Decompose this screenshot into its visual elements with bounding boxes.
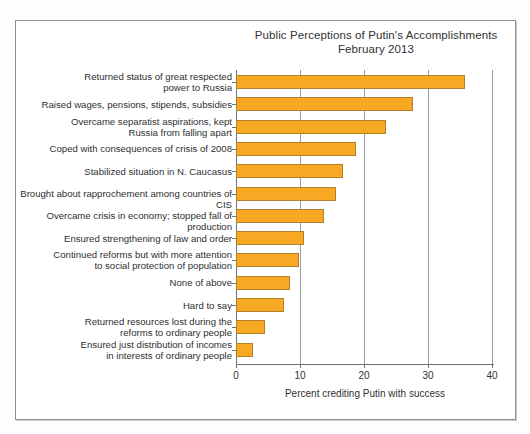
category-label-line: Continued reforms but with more attentio… xyxy=(17,249,232,260)
category-label: None of above xyxy=(17,277,232,288)
category-label: Ensured just distribution of incomesin i… xyxy=(17,339,232,361)
x-axis-title: Percent crediting Putin with success xyxy=(236,388,494,399)
x-tick-30 xyxy=(428,364,429,368)
category-label-line: Overcame separatist aspirations, kept xyxy=(17,116,232,127)
y-tick xyxy=(232,194,236,195)
x-tick-10 xyxy=(300,364,301,368)
category-label-line: Russia from falling apart xyxy=(17,127,232,138)
x-tick-40 xyxy=(492,364,493,368)
bar xyxy=(236,164,343,178)
category-label: Hard to say xyxy=(17,300,232,311)
gridline-30 xyxy=(428,70,429,364)
x-tick-0 xyxy=(236,364,237,368)
category-label-line: Hard to say xyxy=(17,300,232,311)
bar xyxy=(236,343,253,357)
bar xyxy=(236,253,299,267)
bar xyxy=(236,231,304,245)
category-label: Coped with consequences of crisis of 200… xyxy=(17,143,232,154)
bar xyxy=(236,142,356,156)
category-label: Brought about rapprochement among countr… xyxy=(17,188,232,210)
category-label: Returned status of great respectedpower … xyxy=(17,71,232,93)
bar xyxy=(236,209,324,223)
bar xyxy=(236,120,386,134)
plot-area xyxy=(236,70,492,364)
y-tick xyxy=(232,171,236,172)
bar xyxy=(236,276,290,290)
bar xyxy=(236,187,336,201)
category-label: Overcame crisis in economy; stopped fall… xyxy=(17,210,232,232)
x-axis-line xyxy=(236,364,494,365)
x-tick-label-40: 40 xyxy=(486,370,497,381)
category-label: Overcame separatist aspirations, keptRus… xyxy=(17,116,232,138)
category-label-line: Returned status of great respected xyxy=(17,71,232,82)
x-tick-20 xyxy=(364,364,365,368)
y-tick xyxy=(232,149,236,150)
category-label-line: Brought about rapprochement among countr… xyxy=(17,188,232,210)
category-label: Ensured strengthening of law and order xyxy=(17,233,232,244)
gridline-40 xyxy=(492,70,493,364)
category-label-line: power to Russia xyxy=(17,82,232,93)
y-tick xyxy=(232,216,236,217)
x-tick-label-10: 10 xyxy=(294,370,305,381)
y-tick xyxy=(232,82,236,83)
x-tick-label-0: 0 xyxy=(233,370,239,381)
category-label: Continued reforms but with more attentio… xyxy=(17,249,232,271)
category-label-line: Coped with consequences of crisis of 200… xyxy=(17,143,232,154)
y-tick xyxy=(232,350,236,351)
y-tick xyxy=(232,127,236,128)
category-label: Returned resources lost during thereform… xyxy=(17,316,232,338)
category-label-line: Returned resources lost during the xyxy=(17,316,232,327)
category-label: Raised wages, pensions, stipends, subsid… xyxy=(17,99,232,110)
category-label-line: Stabilized situation in N. Caucasus xyxy=(17,166,232,177)
category-label-line: Raised wages, pensions, stipends, subsid… xyxy=(17,99,232,110)
y-tick xyxy=(232,238,236,239)
bar xyxy=(236,97,413,111)
category-label-line: Ensured strengthening of law and order xyxy=(17,233,232,244)
category-label-line: None of above xyxy=(17,277,232,288)
x-tick-label-20: 20 xyxy=(358,370,369,381)
chart-title: Public Perceptions of Putin's Accomplish… xyxy=(236,28,516,56)
y-tick xyxy=(232,327,236,328)
gridline-20 xyxy=(364,70,365,364)
category-label-line: in interests of ordinary people xyxy=(17,350,232,361)
category-label-line: reforms to ordinary people xyxy=(17,327,232,338)
category-label-line: Overcame crisis in economy; stopped fall… xyxy=(17,210,232,232)
y-tick xyxy=(232,305,236,306)
bar xyxy=(236,298,284,312)
y-tick xyxy=(232,283,236,284)
category-label-line: to social protection of population xyxy=(17,260,232,271)
y-tick xyxy=(232,104,236,105)
chart-subtitle: February 2013 xyxy=(236,42,516,56)
bar xyxy=(236,75,465,89)
chart-screenshot: Public Perceptions of Putin's Accomplish… xyxy=(0,0,530,434)
chart-title-main: Public Perceptions of Putin's Accomplish… xyxy=(255,29,498,41)
bar xyxy=(236,320,265,334)
y-tick xyxy=(232,260,236,261)
x-tick-label-30: 30 xyxy=(422,370,433,381)
category-label: Stabilized situation in N. Caucasus xyxy=(17,166,232,177)
category-label-line: Ensured just distribution of incomes xyxy=(17,339,232,350)
